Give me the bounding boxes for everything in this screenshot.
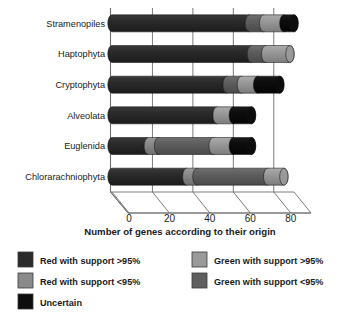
bar-row xyxy=(108,138,256,155)
bar-segment-green_low xyxy=(193,168,272,185)
floor-connector xyxy=(274,192,291,213)
bar-end-cap xyxy=(276,76,284,93)
x-tick-label: 80 xyxy=(285,213,297,224)
legend-swatch xyxy=(192,273,207,288)
category-label: Euglenida xyxy=(64,141,106,151)
category-labels: StramenopilesHaptophytaCryptophytaAlveol… xyxy=(25,19,106,182)
x-tick-label: 40 xyxy=(204,213,216,224)
x-tick-label: 60 xyxy=(245,213,257,224)
legend-item[interactable]: Red with support <95% xyxy=(18,273,140,288)
bar-end-cap xyxy=(247,107,255,124)
x-tick-label: 20 xyxy=(164,213,176,224)
legend-item[interactable]: Green with support <95% xyxy=(192,273,323,288)
category-label: Cryptophyta xyxy=(55,80,105,90)
x-tick-labels: 020406080 xyxy=(126,213,297,224)
legend-label: Uncertain xyxy=(40,298,82,308)
legend-swatch xyxy=(192,252,207,267)
chart-container: StramenopilesHaptophytaCryptophytaAlveol… xyxy=(0,0,360,317)
bar-chart-svg: StramenopilesHaptophytaCryptophytaAlveol… xyxy=(0,0,360,317)
legend-item[interactable]: Green with support >95% xyxy=(192,252,323,267)
legend-swatch xyxy=(18,273,33,288)
x-axis-title: Number of genes according to their origi… xyxy=(84,226,275,237)
bar-segment-red_high xyxy=(108,15,250,32)
legend-item[interactable]: Uncertain xyxy=(18,294,82,309)
bar-row xyxy=(108,107,256,124)
legend-swatch xyxy=(18,252,33,267)
category-label: Alveolata xyxy=(67,111,106,121)
x-tick-label: 0 xyxy=(126,213,132,224)
bar-segment-green_low xyxy=(154,138,217,155)
category-label: Haptophyta xyxy=(58,49,106,59)
floor-connector xyxy=(193,192,210,213)
bar-row xyxy=(108,76,284,93)
legend-item[interactable]: Red with support >95% xyxy=(18,252,140,267)
floor-panel xyxy=(111,192,312,213)
bar-end-cap xyxy=(290,15,298,32)
legend-label: Red with support >95% xyxy=(40,256,140,266)
legend-label: Red with support <95% xyxy=(40,277,140,287)
bar-segment-red_high xyxy=(108,138,149,155)
bar-segment-red_high xyxy=(108,46,252,63)
bar-segment-red_high xyxy=(108,107,217,124)
floor-connectors xyxy=(112,192,291,213)
bar-end-cap xyxy=(286,46,294,63)
bar-row xyxy=(108,168,288,185)
floor-connector xyxy=(152,192,169,213)
bar-segment-red_high xyxy=(108,76,227,93)
bar-segment-red_high xyxy=(108,168,187,185)
legend: Red with support >95%Red with support <9… xyxy=(18,252,323,309)
bar-row xyxy=(108,15,298,32)
bar-end-cap xyxy=(280,168,288,185)
bar-row xyxy=(108,46,294,63)
bar-end-cap xyxy=(247,138,255,155)
plot-background xyxy=(112,8,294,192)
floor-connector xyxy=(112,192,129,213)
category-label: Stramenopiles xyxy=(46,19,105,29)
category-label: Chlorarachniophyta xyxy=(25,172,106,182)
legend-swatch xyxy=(18,294,33,309)
legend-label: Green with support <95% xyxy=(214,277,323,287)
legend-label: Green with support >95% xyxy=(214,256,323,266)
floor-connector xyxy=(233,192,250,213)
